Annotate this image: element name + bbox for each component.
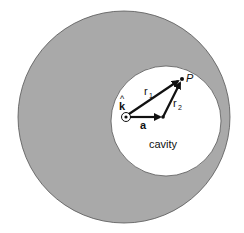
point-a-end bbox=[161, 115, 165, 119]
label-cavity: cavity bbox=[149, 138, 178, 150]
label-r2-subscript: 2 bbox=[178, 104, 182, 111]
label-r2: r bbox=[173, 97, 177, 109]
label-r1-subscript: 1 bbox=[149, 92, 153, 99]
label-r1: r bbox=[144, 85, 148, 97]
cavity-diagram: P r 1 r 2 a k ^ cavity bbox=[0, 0, 244, 233]
k-out-of-page-dot-icon bbox=[124, 115, 127, 118]
label-P: P bbox=[186, 72, 194, 84]
label-a: a bbox=[140, 119, 147, 131]
point-P bbox=[180, 77, 184, 81]
